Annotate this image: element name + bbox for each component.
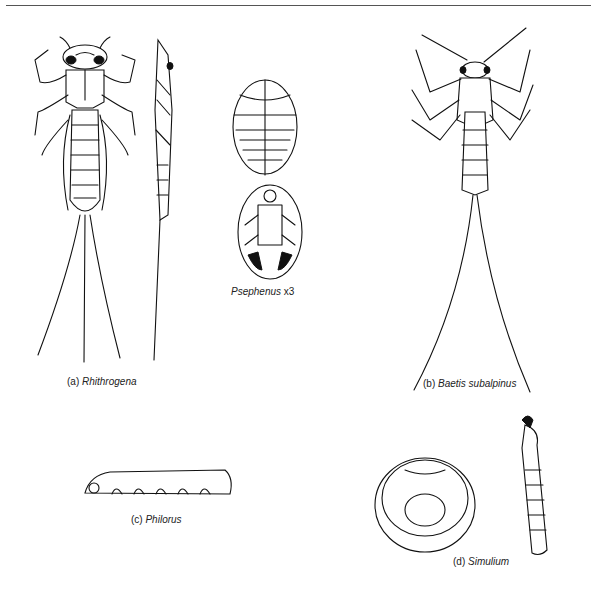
caption-rhithrogena: (a) Rhithrogena: [67, 376, 137, 387]
caption-simulium: (d) Simulium: [453, 556, 509, 567]
philorus-drawing: [85, 470, 231, 494]
caption-baetis: (b) Baetis subalpinus: [423, 378, 516, 389]
simulium-larva-drawing: [522, 416, 547, 554]
rhithrogena-lateral-drawing: [154, 40, 173, 360]
illustration-canvas: [0, 0, 591, 591]
psephenus-drawings: [233, 80, 302, 279]
caption-philorus: (c) Philorus: [131, 514, 182, 525]
caption-psephenus: Psephenus x3: [231, 286, 294, 297]
rhithrogena-dorsal-drawing: [35, 37, 135, 362]
simulium-disc-drawing: [375, 458, 475, 552]
baetis-drawing: [412, 28, 533, 392]
